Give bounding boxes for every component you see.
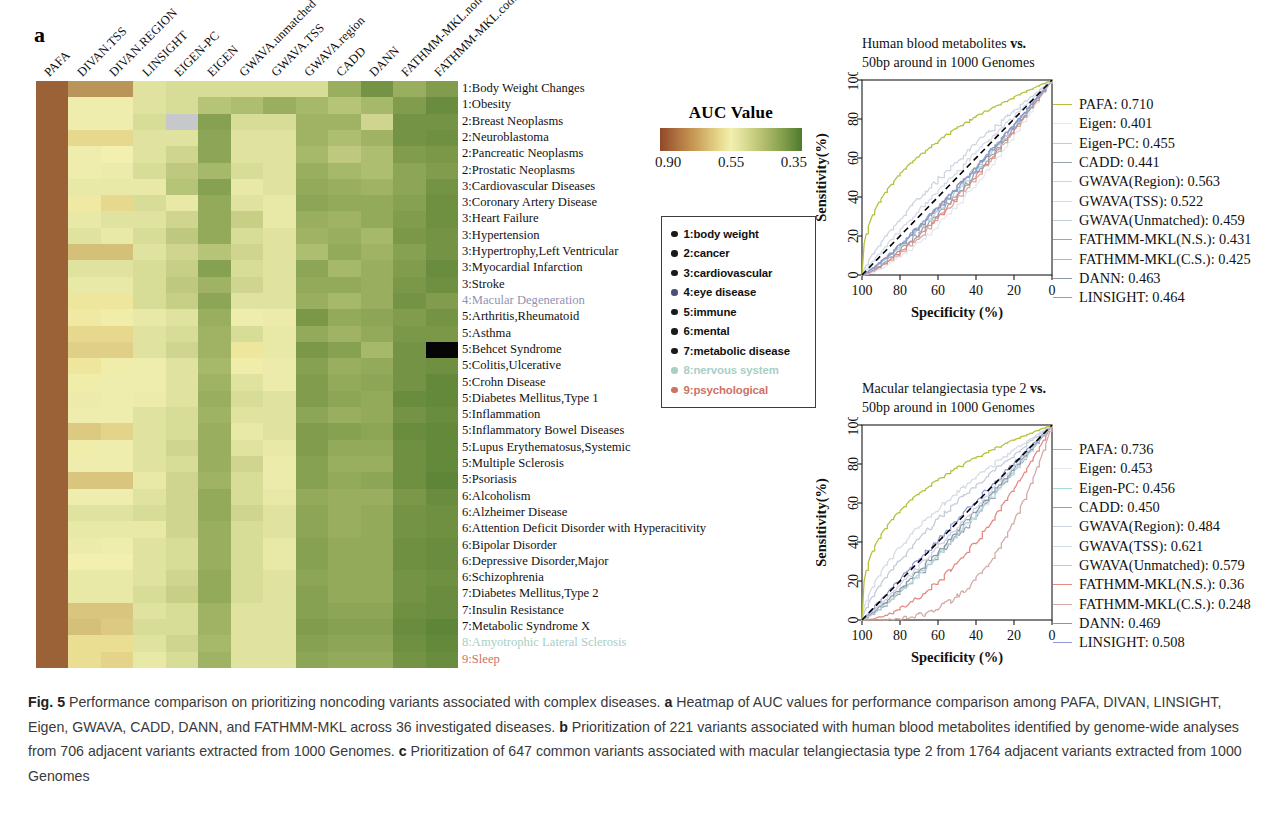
heatmap-row-label: 8:Amyotrophic Lateral Sclerosis (462, 635, 626, 651)
heatmap-cell (361, 635, 393, 651)
heatmap-cell (198, 342, 230, 358)
heatmap-cell (296, 407, 328, 423)
heatmap-cell (231, 586, 263, 602)
heatmap-cell (361, 489, 393, 505)
heatmap-cell (296, 554, 328, 570)
heatmap-cell (361, 423, 393, 439)
roc-legend-label: CADD: 0.450 (1079, 499, 1160, 516)
auc-colorbar-legend: AUC Value 0.90 0.55 0.35 (655, 103, 807, 185)
heatmap-cell (101, 130, 133, 146)
roc-legend-swatch (1053, 623, 1072, 624)
heatmap-cell (393, 81, 425, 97)
heatmap-row-label: 3:Myocardial Infarction (462, 260, 583, 276)
heatmap-cell (231, 440, 263, 456)
roc-legend-swatch (1053, 468, 1072, 469)
heatmap-cell (231, 163, 263, 179)
heatmap-cell (296, 505, 328, 521)
heatmap-cell (393, 391, 425, 407)
heatmap-cell (296, 293, 328, 309)
heatmap-cell (101, 554, 133, 570)
roc-legend-swatch (1053, 526, 1072, 527)
heatmap-cell (296, 228, 328, 244)
heatmap-cell (101, 260, 133, 276)
heatmap-cell (101, 293, 133, 309)
heatmap-cell (166, 391, 198, 407)
roc-legend-label: FATHMM-MKL(C.S.): 0.248 (1079, 596, 1251, 613)
heatmap-cell (296, 195, 328, 211)
roc-legend-item: GWAVA(TSS): 0.522 (1053, 191, 1278, 210)
heatmap-cell (231, 635, 263, 651)
roc-legend-swatch (1053, 259, 1072, 260)
heatmap-cell (361, 326, 393, 342)
auc-legend-title: AUC Value (655, 103, 807, 123)
heatmap-cell (328, 163, 360, 179)
roc-legend-item: CADD: 0.450 (1053, 498, 1278, 517)
heatmap-cell (263, 407, 295, 423)
heatmap-cell (166, 358, 198, 374)
heatmap-cell (133, 195, 165, 211)
heatmap-cell (198, 81, 230, 97)
heatmap-cell (133, 652, 165, 668)
heatmap-cell (68, 130, 100, 146)
heatmap-cell (101, 505, 133, 521)
roc-legend-label: Eigen-PC: 0.455 (1079, 135, 1175, 152)
roc-legend-swatch (1053, 507, 1072, 508)
heatmap-cell (263, 521, 295, 537)
heatmap-cell (133, 489, 165, 505)
heatmap-cell (361, 652, 393, 668)
heatmap-cell (231, 81, 263, 97)
category-legend-item: 6:mental (671, 322, 807, 342)
category-dot-icon (671, 231, 678, 238)
x-tick-label: 40 (969, 628, 983, 643)
y-axis-title: Sensitivity(%) (816, 133, 830, 222)
heatmap-cell (393, 326, 425, 342)
heatmap-cell (361, 374, 393, 390)
heatmap-cell (36, 489, 68, 505)
heatmap-cell (393, 260, 425, 276)
heatmap-cell (166, 456, 198, 472)
heatmap-cell (426, 146, 458, 162)
heatmap-cell (36, 81, 68, 97)
heatmap-cell (263, 603, 295, 619)
roc-legend-swatch (1053, 449, 1072, 450)
figure-caption: Fig. 5 Performance comparison on priorit… (28, 690, 1256, 788)
heatmap-cell (198, 260, 230, 276)
heatmap-row-label: 6:Alzheimer Disease (462, 505, 567, 521)
heatmap-cell (198, 619, 230, 635)
roc-legend-item: Eigen: 0.401 (1053, 114, 1278, 133)
heatmap-cell (361, 342, 393, 358)
x-tick-label: 80 (893, 283, 907, 298)
roc-legend-label: Eigen-PC: 0.456 (1079, 480, 1175, 497)
heatmap-cell (36, 179, 68, 195)
category-legend-label: 5:immune (684, 306, 737, 318)
heatmap-row-label: 5:Arthritis,Rheumatoid (462, 309, 579, 325)
heatmap-cell (393, 146, 425, 162)
heatmap-cell (263, 146, 295, 162)
heatmap-cell (198, 211, 230, 227)
category-dot-icon (671, 328, 678, 335)
roc-legend-label: PAFA: 0.736 (1079, 441, 1153, 458)
heatmap-cell (361, 472, 393, 488)
heatmap-cell (198, 407, 230, 423)
heatmap-cell (198, 130, 230, 146)
heatmap-cell (263, 391, 295, 407)
heatmap-cell (426, 97, 458, 113)
heatmap-cell (133, 260, 165, 276)
heatmap-cell (198, 228, 230, 244)
heatmap-cell (328, 635, 360, 651)
heatmap-cell (328, 342, 360, 358)
heatmap-cell (133, 114, 165, 130)
heatmap-cell (68, 391, 100, 407)
heatmap-cell (328, 619, 360, 635)
auc-colorbar-gradient (660, 128, 802, 151)
roc-legend-item: CADD: 0.441 (1053, 153, 1278, 172)
heatmap-cell (263, 81, 295, 97)
category-legend-item: 2:cancer (671, 244, 807, 264)
heatmap-cell (328, 489, 360, 505)
heatmap-column-labels: PAFADIVAN.TSSDIVAN.REGIONLINSIGHTEIGEN-P… (36, 0, 476, 80)
heatmap-cell (328, 114, 360, 130)
roc-legend-item: FATHMM-MKL(N.S.): 0.431 (1053, 230, 1278, 249)
y-tick-label: 40 (846, 535, 861, 549)
heatmap-cell (296, 538, 328, 554)
heatmap-cell (426, 195, 458, 211)
